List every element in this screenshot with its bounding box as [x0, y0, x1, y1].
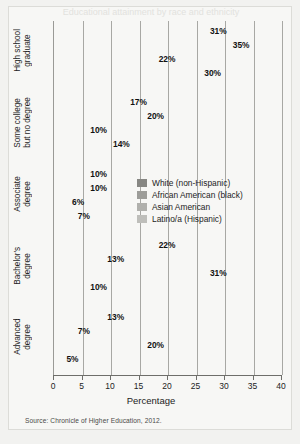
bar — [53, 65, 224, 79]
x-axis-tick — [110, 376, 111, 380]
bar-value-label: 5% — [59, 355, 79, 363]
x-axis-tick-label: 25 — [184, 381, 208, 391]
y-axis-category-label: Associate degree — [13, 166, 47, 222]
bar-value-label: 31% — [207, 269, 227, 277]
y-axis-category-label: Some college but no degree — [13, 95, 47, 151]
x-axis-tick-label: 10 — [98, 381, 122, 391]
x-axis-tick — [139, 376, 140, 380]
source-note: Source: Chronicle of Higher Education, 2… — [25, 417, 162, 424]
bar-value-label: 20% — [144, 341, 164, 349]
bar-value-label: 17% — [127, 98, 147, 106]
legend-swatch-latino — [137, 215, 147, 223]
bar-value-label: 10% — [87, 184, 107, 192]
bar-value-label: 22% — [155, 55, 175, 63]
x-axis-tick — [281, 376, 282, 380]
bar-value-label: 10% — [87, 126, 107, 134]
x-axis-tick-label: 30 — [212, 381, 236, 391]
x-axis-tick-label: 20 — [155, 381, 179, 391]
legend-item: White (non-Hispanic) — [137, 177, 279, 188]
x-axis-tick-label: 40 — [269, 381, 293, 391]
gridline — [282, 21, 283, 375]
bar-value-label: 14% — [110, 140, 130, 148]
x-axis-tick — [196, 376, 197, 380]
bar-value-label: 6% — [64, 198, 84, 206]
x-axis-label: Percentage — [9, 395, 293, 406]
bar — [53, 266, 230, 280]
x-axis-tick-label: 15 — [127, 381, 151, 391]
chart-title-fragment: Educational attainment by race and ethni… — [9, 7, 293, 18]
legend-swatch-asian-american — [137, 203, 147, 211]
x-axis-tick — [167, 376, 168, 380]
x-axis-tick — [224, 376, 225, 380]
bar-value-label: 13% — [104, 313, 124, 321]
x-axis-tick-label: 35 — [241, 381, 265, 391]
bar — [53, 37, 253, 51]
bar-value-label: 31% — [207, 27, 227, 35]
x-axis-tick-label: 0 — [41, 381, 65, 391]
bar-value-label: 22% — [155, 241, 175, 249]
bar-value-label: 10% — [87, 283, 107, 291]
x-axis-tick — [82, 376, 83, 380]
bar-value-label: 7% — [70, 327, 90, 335]
chart-figure: Educational attainment by race and ethni… — [8, 6, 292, 430]
y-axis-category-label: High school graduate — [13, 23, 47, 79]
legend-item: Asian American — [137, 201, 279, 212]
legend-label: White (non-Hispanic) — [152, 178, 230, 188]
bar-value-label: 35% — [230, 41, 250, 49]
legend-label: Asian American — [152, 202, 210, 212]
y-axis-category-label: Advanced degree — [13, 309, 47, 365]
x-axis-tick — [53, 376, 54, 380]
legend-swatch-african-american — [137, 191, 147, 199]
bar — [53, 23, 230, 37]
x-axis-tick-label: 5 — [70, 381, 94, 391]
bar-value-label: 7% — [70, 212, 90, 220]
y-axis-category-label: Bachelor's degree — [13, 238, 47, 294]
bar-value-label: 13% — [104, 255, 124, 263]
bar-value-label: 30% — [201, 69, 221, 77]
legend-swatch-white — [137, 179, 147, 187]
bar-value-label: 10% — [87, 170, 107, 178]
x-axis-tick — [253, 376, 254, 380]
legend-label: African American (black) — [152, 190, 243, 200]
bar-value-label: 20% — [144, 112, 164, 120]
chart-legend: White (non-Hispanic) African American (b… — [137, 177, 279, 225]
legend-item: Latino/a (Hispanic) — [137, 213, 279, 224]
legend-label: Latino/a (Hispanic) — [152, 214, 222, 224]
legend-item: African American (black) — [137, 189, 279, 200]
